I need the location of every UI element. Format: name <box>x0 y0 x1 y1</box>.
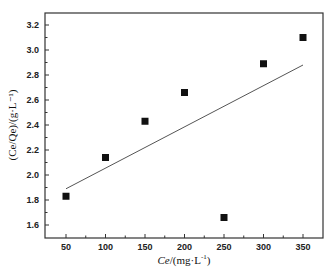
data-point <box>260 60 267 67</box>
y-axis-title: (Ce/Qe)/(g·L⁻¹) <box>6 89 19 160</box>
x-tick-label: 150 <box>137 242 152 252</box>
data-points <box>63 34 307 221</box>
x-tick-label: 50 <box>61 242 71 252</box>
x-axis-title: Ce/(mg·L-1) <box>158 253 211 267</box>
y-tick-label: 3.0 <box>26 45 39 55</box>
data-point <box>63 193 70 200</box>
y-tick-label: 2.6 <box>26 95 39 105</box>
y-tick-label: 1.8 <box>26 195 39 205</box>
x-tick-label: 100 <box>98 242 113 252</box>
x-axis-ticks: 50100150200250300350 <box>61 234 311 252</box>
data-point <box>300 34 307 41</box>
fit-line <box>66 65 303 189</box>
data-point <box>102 154 109 161</box>
plot-frame <box>45 13 323 238</box>
y-tick-label: 2.4 <box>26 120 39 130</box>
x-tick-label: 200 <box>177 242 192 252</box>
y-tick-label: 1.6 <box>26 220 39 230</box>
data-point <box>142 118 149 125</box>
data-point <box>181 89 188 96</box>
chart: 1.61.82.02.22.42.62.83.03.2 501001502002… <box>0 0 332 276</box>
data-point <box>221 214 228 221</box>
y-tick-label: 2.8 <box>26 70 39 80</box>
x-tick-label: 250 <box>216 242 231 252</box>
y-tick-label: 3.2 <box>26 20 39 30</box>
y-tick-label: 2.0 <box>26 170 39 180</box>
y-tick-label: 2.2 <box>26 145 39 155</box>
y-axis-ticks: 1.61.82.02.22.42.62.83.03.2 <box>26 20 49 230</box>
x-tick-label: 350 <box>295 242 310 252</box>
x-tick-label: 300 <box>256 242 271 252</box>
